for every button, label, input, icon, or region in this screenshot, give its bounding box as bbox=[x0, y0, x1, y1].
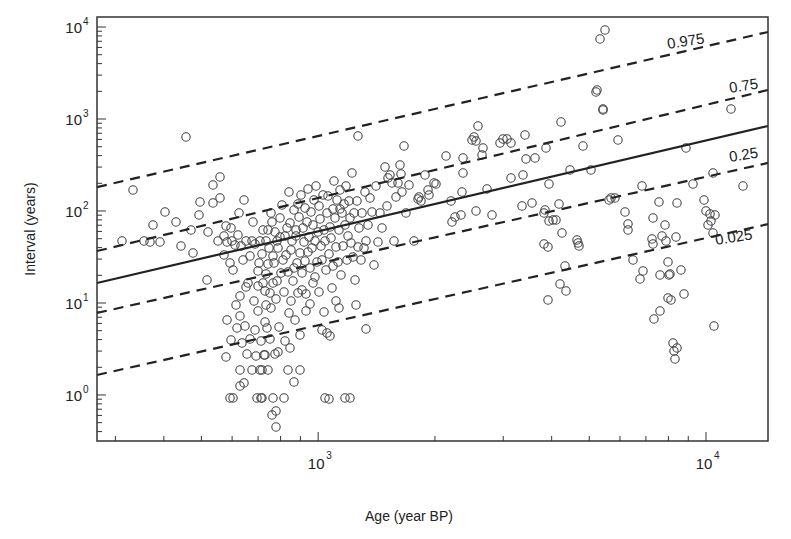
data-point bbox=[328, 284, 336, 292]
data-point bbox=[656, 307, 664, 315]
data-point bbox=[425, 191, 433, 199]
data-point bbox=[364, 221, 372, 229]
data-point bbox=[596, 35, 604, 43]
data-point bbox=[562, 287, 570, 295]
data-point bbox=[346, 394, 354, 402]
data-point bbox=[195, 211, 203, 219]
data-point bbox=[557, 118, 565, 126]
data-point bbox=[353, 197, 361, 205]
data-point bbox=[621, 208, 629, 216]
data-point bbox=[354, 132, 362, 140]
quantile-line-0975 bbox=[97, 32, 768, 187]
data-point bbox=[216, 194, 224, 202]
data-point bbox=[545, 180, 553, 188]
data-point bbox=[172, 218, 180, 226]
data-point bbox=[276, 214, 284, 222]
data-point bbox=[156, 238, 164, 246]
quantile-line-075 bbox=[97, 90, 768, 251]
data-point bbox=[320, 308, 328, 316]
data-point bbox=[223, 316, 231, 324]
data-point bbox=[345, 197, 353, 205]
data-point bbox=[672, 233, 680, 241]
data-point bbox=[629, 256, 637, 264]
data-point bbox=[664, 258, 672, 266]
data-point bbox=[269, 394, 277, 402]
quantile-line-median bbox=[97, 126, 768, 283]
data-point bbox=[671, 355, 679, 363]
data-point bbox=[351, 276, 359, 284]
data-point bbox=[315, 202, 323, 210]
data-point bbox=[293, 259, 301, 267]
data-point bbox=[315, 288, 323, 296]
data-point bbox=[386, 171, 394, 179]
data-point bbox=[243, 350, 251, 358]
data-point bbox=[710, 322, 718, 330]
data-point bbox=[262, 301, 270, 309]
data-point bbox=[316, 215, 324, 223]
y-tick-exponent: 1 bbox=[83, 292, 89, 303]
data-point bbox=[236, 292, 244, 300]
data-point bbox=[290, 378, 298, 386]
data-point bbox=[335, 304, 343, 312]
data-point bbox=[680, 290, 688, 298]
data-point bbox=[265, 244, 273, 252]
data-point bbox=[307, 208, 315, 216]
data-point bbox=[448, 218, 456, 226]
y-tick-exponent: 0 bbox=[83, 384, 89, 395]
data-point bbox=[196, 198, 204, 206]
data-point bbox=[521, 131, 529, 139]
data-point bbox=[271, 350, 279, 358]
data-point bbox=[258, 250, 266, 258]
data-point bbox=[528, 199, 536, 207]
x-axis-title: Age (year BP) bbox=[365, 508, 453, 524]
data-point bbox=[232, 301, 240, 309]
data-point bbox=[268, 218, 276, 226]
data-point bbox=[149, 221, 157, 229]
data-point bbox=[233, 324, 241, 332]
data-point bbox=[256, 366, 264, 374]
data-point bbox=[251, 326, 259, 334]
data-point bbox=[258, 366, 266, 374]
data-point bbox=[381, 163, 389, 171]
data-point bbox=[275, 323, 283, 331]
data-point bbox=[673, 199, 681, 207]
data-point bbox=[507, 174, 515, 182]
y-tick-label: 10 bbox=[65, 19, 82, 36]
data-point bbox=[249, 218, 257, 226]
data-point bbox=[661, 221, 669, 229]
data-point bbox=[601, 26, 609, 34]
data-point bbox=[544, 296, 552, 304]
data-point bbox=[216, 173, 224, 181]
data-point bbox=[264, 260, 272, 268]
data-point bbox=[711, 211, 719, 219]
data-point bbox=[209, 181, 217, 189]
data-point bbox=[161, 208, 169, 216]
data-point bbox=[655, 198, 663, 206]
data-point bbox=[396, 161, 404, 169]
data-point bbox=[370, 261, 378, 269]
y-axis-title: Interval (years) bbox=[22, 182, 38, 275]
data-point bbox=[519, 171, 527, 179]
data-point bbox=[555, 200, 563, 208]
data-point bbox=[285, 188, 293, 196]
data-point bbox=[129, 186, 137, 194]
data-point bbox=[374, 238, 382, 246]
data-point bbox=[383, 202, 391, 210]
data-point bbox=[182, 133, 190, 141]
data-point bbox=[398, 188, 406, 196]
y-tick-exponent: 3 bbox=[83, 108, 89, 119]
y-tick-label: 10 bbox=[65, 111, 82, 128]
data-point bbox=[246, 252, 254, 260]
data-point bbox=[240, 196, 248, 204]
data-point bbox=[727, 105, 735, 113]
data-point bbox=[300, 238, 308, 246]
data-point bbox=[289, 277, 297, 285]
data-point bbox=[459, 154, 467, 162]
data-point bbox=[337, 271, 345, 279]
data-point bbox=[304, 185, 312, 193]
data-point bbox=[638, 182, 646, 190]
data-point bbox=[254, 267, 262, 275]
data-point bbox=[272, 423, 280, 431]
data-point bbox=[248, 366, 256, 374]
x-tick-exponent: 4 bbox=[714, 450, 720, 461]
